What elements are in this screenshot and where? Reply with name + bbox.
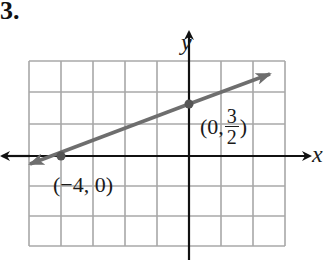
point-neg4-0 (57, 152, 66, 161)
grid (29, 61, 285, 246)
point-label-0-3half: (0, 3 2 ) (200, 106, 247, 147)
graph-line (189, 74, 270, 104)
fraction: 3 2 (225, 106, 239, 147)
y-axis-label: y (181, 30, 192, 54)
point-label-neg4-0: (−4, 0) (53, 174, 113, 196)
fraction-numerator: 3 (225, 106, 239, 127)
fraction-denominator: 2 (227, 127, 237, 147)
x-axis-label: x (312, 142, 323, 166)
point-0-3half (185, 100, 194, 109)
point-label-prefix: (0, (200, 116, 224, 138)
point-label-suffix: ) (240, 116, 247, 138)
coordinate-plane (0, 0, 329, 260)
